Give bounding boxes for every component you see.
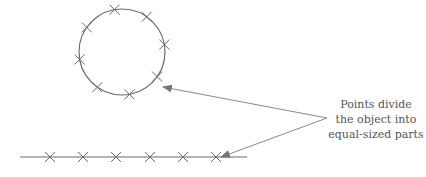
annotation-line-3: equal-sized parts (326, 127, 426, 142)
circle-division-mark (82, 22, 92, 32)
pointer-arrow (221, 118, 327, 157)
circle-division-mark (92, 82, 102, 92)
pointer-arrow (163, 87, 327, 118)
circle-division-mark (152, 72, 162, 82)
annotation-line-2: the object into (326, 112, 426, 127)
annotation-line-1: Points divide (326, 97, 426, 112)
annotation-arrows (163, 87, 327, 157)
circle-object (75, 5, 170, 100)
circle-division-mark (142, 12, 152, 22)
line-segment-object (20, 152, 247, 162)
circle-outline (79, 9, 165, 95)
annotation-label: Points divide the object into equal-size… (326, 97, 426, 142)
